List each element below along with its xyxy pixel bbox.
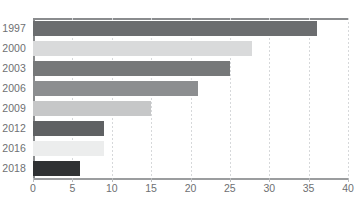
bar xyxy=(33,81,198,96)
bar-row xyxy=(33,158,348,178)
bar-row xyxy=(33,118,348,138)
bar-row xyxy=(33,98,348,118)
x-axis-tick-label: 15 xyxy=(145,183,157,194)
bar xyxy=(33,141,104,156)
bar-row xyxy=(33,138,348,158)
bar xyxy=(33,41,252,56)
bar xyxy=(33,121,104,136)
x-axis-tick-label: 0 xyxy=(30,183,36,194)
bar xyxy=(33,101,151,116)
bar-row xyxy=(33,18,348,38)
x-axis-tick-label: 5 xyxy=(69,183,75,194)
y-axis-label: 2003 xyxy=(0,58,30,78)
x-axis-tick-label: 20 xyxy=(185,183,197,194)
gridline xyxy=(348,18,349,178)
x-axis-tick-label: 30 xyxy=(263,183,275,194)
y-axis-labels: 19972000200320062009201220162018 xyxy=(0,18,30,178)
bar xyxy=(33,161,80,176)
bar-row xyxy=(33,58,348,78)
x-axis-tick-label: 35 xyxy=(303,183,315,194)
bar-row xyxy=(33,38,348,58)
plot-area xyxy=(33,18,348,178)
bar xyxy=(33,21,317,36)
y-axis-label: 2006 xyxy=(0,78,30,98)
x-axis-tick-label: 25 xyxy=(224,183,236,194)
y-axis-label: 2012 xyxy=(0,118,30,138)
bar-chart: 19972000200320062009201220162018 0510152… xyxy=(0,0,357,216)
bar xyxy=(33,61,230,76)
x-axis-tick-label: 40 xyxy=(342,183,354,194)
y-axis-label: 2000 xyxy=(0,38,30,58)
x-axis-tick-label: 10 xyxy=(106,183,118,194)
x-axis-ticks: 0510152025303540 xyxy=(33,183,348,203)
bar-series xyxy=(33,18,348,178)
y-axis-label: 1997 xyxy=(0,18,30,38)
y-axis-label: 2018 xyxy=(0,158,30,178)
y-axis-label: 2009 xyxy=(0,98,30,118)
bar-row xyxy=(33,78,348,98)
y-axis-label: 2016 xyxy=(0,138,30,158)
